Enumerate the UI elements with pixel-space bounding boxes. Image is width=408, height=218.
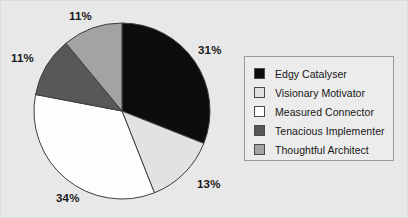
legend-item[interactable]: Measured Connector [254, 102, 393, 121]
legend-item-label: Tenacious Implementer [275, 125, 385, 137]
legend-item[interactable]: Tenacious Implementer [254, 121, 393, 140]
legend-swatch-icon [254, 125, 265, 136]
pct-label-thoughtful-architect: 11% [69, 10, 92, 22]
pct-label-tenacious-implementer: 11% [11, 52, 34, 64]
legend-item-label: Measured Connector [275, 106, 374, 118]
legend-item[interactable]: Thoughtful Architect [254, 140, 393, 159]
legend-item-label: Visionary Motivator [275, 87, 365, 99]
legend-item-label: Thoughtful Architect [275, 144, 369, 156]
pie-slice-group [34, 23, 210, 199]
legend-item[interactable]: Edgy Catalyser [254, 64, 393, 83]
legend-item[interactable]: Visionary Motivator [254, 83, 393, 102]
pct-label-visionary-motivator: 13% [197, 178, 221, 190]
legend-swatch-icon [254, 87, 265, 98]
legend-swatch-icon [254, 68, 265, 79]
legend-swatch-icon [254, 106, 265, 117]
pct-label-measured-connector: 34% [56, 192, 80, 204]
pie-chart-figure: 11% 11% 31% 13% 34% Edgy CatalyserVision… [0, 0, 408, 218]
chart-legend: Edgy CatalyserVisionary MotivatorMeasure… [244, 56, 394, 161]
legend-item-label: Edgy Catalyser [275, 68, 347, 80]
pct-label-edgy-catalyser: 31% [198, 44, 222, 56]
legend-swatch-icon [254, 144, 265, 155]
